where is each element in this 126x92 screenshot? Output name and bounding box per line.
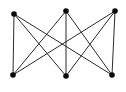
graph-vertex-top-middle bbox=[63, 8, 69, 14]
graph-vertex-top-left bbox=[11, 11, 17, 17]
graph-vertex-bottom-right bbox=[109, 72, 115, 78]
graph-vertex-bottom-middle bbox=[63, 73, 69, 79]
graph-vertex-top-right bbox=[112, 8, 118, 14]
graph-diagram-canvas bbox=[0, 0, 126, 92]
k33-graph-diagram bbox=[0, 0, 126, 92]
graph-edge-top-left--bottom-right bbox=[14, 14, 112, 75]
graph-edge-top-middle--bottom-left bbox=[13, 11, 66, 75]
graph-edge-top-right--bottom-right bbox=[112, 11, 115, 75]
graph-edge-top-right--bottom-left bbox=[13, 11, 115, 75]
graph-edge-top-middle--bottom-right bbox=[66, 11, 112, 75]
graph-edge-top-left--bottom-left bbox=[13, 14, 14, 75]
graph-vertex-bottom-left bbox=[10, 72, 16, 78]
graph-edge-top-left--bottom-middle bbox=[14, 14, 66, 76]
